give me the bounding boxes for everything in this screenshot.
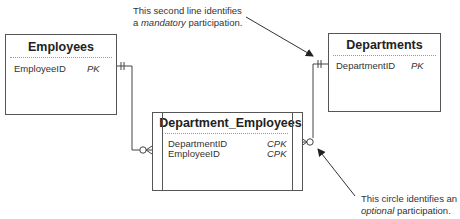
- entity-title: Departments: [329, 38, 440, 52]
- attribute-key: PK: [87, 63, 100, 74]
- attribute-name: DepartmentID: [336, 60, 395, 71]
- entity-department-employees[interactable]: Department_Employees DepartmentID CPK Em…: [152, 112, 303, 191]
- right-inner-border: [292, 113, 293, 190]
- attribute-key: CPK: [267, 148, 287, 159]
- optional-annotation-line1: This circle identifies an: [361, 193, 457, 205]
- mandatory-prefix: a: [133, 17, 141, 28]
- title-separator: [333, 55, 436, 56]
- title-separator: [10, 57, 112, 58]
- attribute-name: EmployeeID: [14, 63, 66, 74]
- mandatory-emphasis: mandatory: [141, 17, 186, 28]
- optional-suffix: participation.: [394, 205, 451, 216]
- employees-relationship-line: [116, 62, 152, 154]
- mandatory-arrow: [246, 17, 313, 56]
- entity-title: Employees: [6, 40, 116, 54]
- mandatory-annotation-line1: This second line identifies: [133, 5, 242, 17]
- attribute-name: EmployeeID: [168, 148, 220, 159]
- optional-arrow: [318, 149, 355, 196]
- mandatory-annotation-line2: a mandatory participation.: [133, 17, 242, 29]
- attribute-key: PK: [411, 60, 424, 71]
- optional-annotation: This circle identifies an optional parti…: [361, 193, 457, 217]
- entity-title: Department_Employees: [159, 116, 302, 130]
- optional-emphasis: optional: [361, 205, 394, 216]
- departments-relationship-line: [302, 60, 328, 146]
- title-separator: [165, 133, 288, 134]
- mandatory-annotation: This second line identifies a mandatory …: [133, 5, 242, 29]
- entity-departments[interactable]: Departments DepartmentID PK: [328, 33, 441, 112]
- entity-employees[interactable]: Employees EmployeeID PK: [5, 34, 117, 115]
- optional-annotation-line2: optional participation.: [361, 205, 457, 217]
- mandatory-suffix: participation.: [186, 17, 243, 28]
- left-inner-border: [162, 113, 163, 190]
